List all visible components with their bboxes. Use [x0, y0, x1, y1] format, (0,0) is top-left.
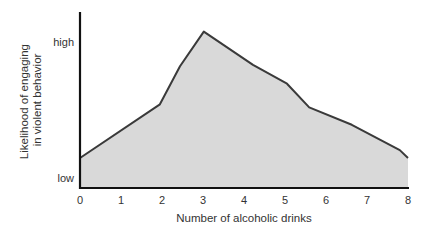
x-tick-label: 0	[77, 194, 83, 206]
y-axis-title-line-1: Likelihood of engaging	[18, 44, 30, 159]
y-tick-label-high: high	[53, 36, 74, 48]
area-fill	[80, 32, 408, 188]
x-tick-label: 5	[282, 194, 288, 206]
y-tick-labels: highlow	[53, 36, 74, 184]
x-tick-label: 3	[200, 194, 206, 206]
area-chart: 012345678 highlow Number of alcoholic dr…	[0, 0, 432, 234]
y-tick-label-low: low	[57, 172, 74, 184]
x-tick-label: 4	[241, 194, 247, 206]
y-axis-title: Likelihood of engaging in violent behavi…	[18, 41, 43, 159]
x-tick-label: 6	[323, 194, 329, 206]
x-tick-label: 2	[159, 194, 165, 206]
x-tick-label: 7	[364, 194, 370, 206]
x-axis-title: Number of alcoholic drinks	[176, 212, 312, 224]
y-axis-title-line-2: in violent behavior	[31, 53, 43, 146]
x-tick-label: 8	[405, 194, 411, 206]
x-tick-labels: 012345678	[77, 194, 411, 206]
x-tick-label: 1	[118, 194, 124, 206]
